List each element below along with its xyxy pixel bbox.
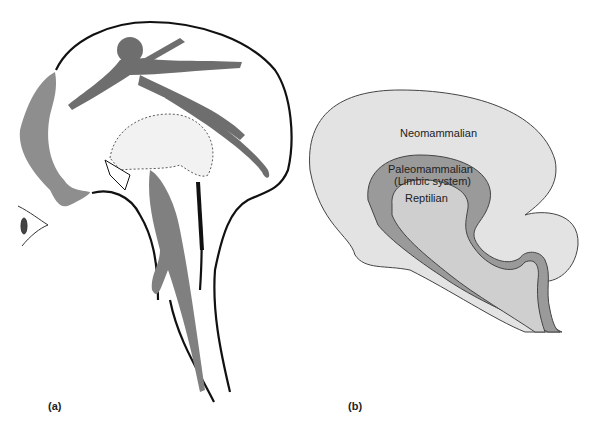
label-neomammalian: Neomammalian: [400, 127, 477, 139]
panel-b-label: (b): [348, 400, 362, 412]
panel-a-label: (a): [48, 400, 61, 412]
label-paleomammalian: Paleomammalian: [388, 163, 473, 175]
lizard-shape: [149, 170, 205, 392]
dolphin-shape: [20, 72, 90, 206]
label-limbic-system: (Limbic system): [394, 175, 471, 187]
eye-icon: [18, 206, 48, 246]
label-reptilian: Reptilian: [405, 192, 448, 204]
triune-brain-figure: [0, 0, 598, 427]
